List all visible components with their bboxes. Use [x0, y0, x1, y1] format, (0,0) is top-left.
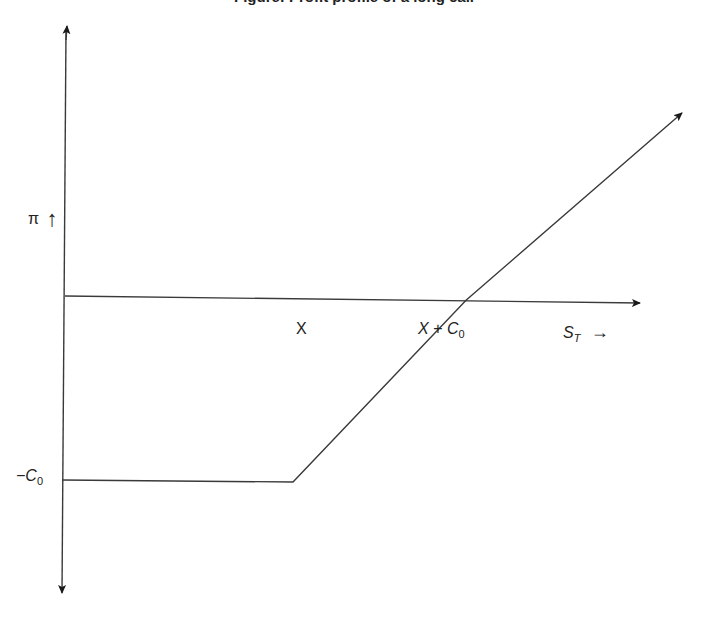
y-axis-top-arrow	[66, 26, 67, 40]
x-tick-label-breakeven: X + C0	[418, 320, 465, 340]
premium-label: −C	[16, 467, 37, 484]
x-axis-subscript: T	[574, 332, 581, 344]
x-axis-symbol: S	[563, 324, 574, 341]
y-axis-label: π ↑	[28, 206, 58, 232]
y-tick-label-premium: −C0	[16, 467, 43, 487]
premium-subscript: 0	[37, 475, 43, 487]
x-tick-label-strike: X	[296, 320, 307, 338]
breakeven-label: X + C	[418, 320, 458, 337]
chart-canvas	[0, 0, 708, 631]
x-axis-right-arrow-icon: →	[591, 322, 609, 342]
strike-label: X	[296, 320, 307, 337]
y-axis-up-arrow-icon: ↑	[47, 206, 58, 231]
x-axis-line	[65, 296, 640, 303]
breakeven-subscript: 0	[458, 328, 464, 340]
x-axis-label: ST →	[563, 322, 609, 344]
y-axis-line	[62, 30, 66, 593]
y-axis-symbol: π	[28, 210, 39, 227]
